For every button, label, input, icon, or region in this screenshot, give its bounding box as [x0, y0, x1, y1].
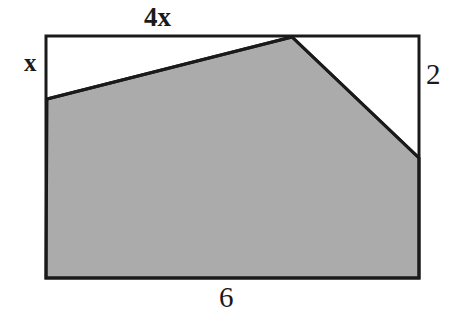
- geometry-figure: 4x x 2 6: [0, 0, 466, 323]
- label-top-4x: 4x: [144, 4, 171, 31]
- figure-canvas: [0, 0, 466, 323]
- label-bottom-6: 6: [219, 283, 234, 312]
- label-left-x: x: [24, 50, 37, 75]
- label-right-2: 2: [426, 60, 441, 89]
